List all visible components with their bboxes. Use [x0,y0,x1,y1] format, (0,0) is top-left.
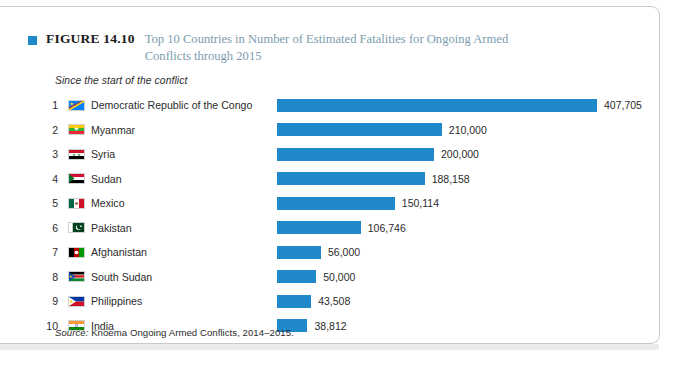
chart-row: 8South Sudan50,000 [0,265,660,290]
bar [277,123,442,136]
row-country-name: Sudan [91,173,122,185]
bar-value-label: 200,000 [441,148,479,160]
figure-number-label: FIGURE 14.10 [46,31,135,47]
bar-value-label: 43,508 [318,295,350,307]
chart-row: 3Syria200,000 [0,142,660,167]
flag-sd-icon [68,173,85,184]
row-country-name: Pakistan [91,222,132,234]
flag-sy-icon [68,149,85,160]
row-rank: 4 [40,173,58,185]
bar [277,172,425,185]
row-rank: 8 [40,271,58,283]
flag-cd-icon [68,100,85,111]
row-country-name: Philippines [91,295,142,307]
chart-row: 9Philippines43,508 [0,289,660,314]
row-country-name: Syria [91,148,115,160]
horizontal-bar-chart: 1Democratic Republic of the Congo407,705… [0,93,660,318]
bar-value-label: 188,158 [432,173,470,185]
bar-value-label: 56,000 [328,246,360,258]
chart-row: 4Sudan188,158 [0,167,660,192]
bar [277,270,316,283]
row-country-name: Mexico [91,197,125,209]
source-text: Knoema Ongoing Armed Conflicts, 2014–201… [88,327,293,338]
flag-mm-icon [68,124,85,135]
bar [277,246,321,259]
figure-header: FIGURE 14.10 Top 10 Countries in Number … [28,31,628,65]
bar [277,99,597,112]
row-rank: 1 [40,99,58,111]
flag-mx-icon [68,198,85,209]
bar-value-label: 50,000 [323,271,355,283]
row-rank: 6 [40,222,58,234]
row-country-name: Afghanistan [91,246,147,258]
blue-square-icon [28,36,37,45]
bar [277,221,361,234]
chart-row: 5Mexico150,114 [0,191,660,216]
chart-row: 7Afghanistan56,000 [0,240,660,265]
chart-sub-caption: Since the start of the conflict [55,75,187,86]
bar [277,197,395,210]
flag-af-icon [68,247,85,258]
bar [277,295,311,308]
chart-row: 2Myanmar210,000 [0,118,660,143]
flag-ss-icon [68,271,85,282]
row-rank: 3 [40,148,58,160]
source-note: Source: Knoema Ongoing Armed Conflicts, … [55,327,294,338]
bar [277,148,434,161]
row-country-name: Myanmar [91,124,135,136]
row-country-name: Democratic Republic of the Congo [91,99,252,111]
bar-value-label: 106,746 [368,222,406,234]
chart-row: 1Democratic Republic of the Congo407,705 [0,93,660,118]
figure-frame: FIGURE 14.10 Top 10 Countries in Number … [0,6,660,344]
row-rank: 2 [40,124,58,136]
row-rank: 7 [40,246,58,258]
bar-value-label: 150,114 [402,197,439,209]
source-label: Source: [55,327,88,338]
chart-row: 6Pakistan106,746 [0,216,660,241]
bar-value-label: 210,000 [449,124,487,136]
row-country-name: South Sudan [91,271,152,283]
flag-pk-icon [68,222,85,233]
row-rank: 5 [40,197,58,209]
row-rank: 9 [40,295,58,307]
figure-title: Top 10 Countries in Number of Estimated … [145,31,545,65]
bar-value-label: 407,705 [604,99,642,111]
flag-ph-icon [68,296,85,307]
bar-value-label: 38,812 [314,320,346,332]
